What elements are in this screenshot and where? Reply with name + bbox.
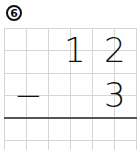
answer-line [4,117,137,119]
grid-line [136,28,137,150]
subtrahend-ones-digit: 3 [104,78,126,112]
minuend-ones-digit: 2 [104,33,126,67]
grid-line [4,28,137,29]
grid-line [92,28,93,150]
problem-number: 6 [10,8,18,19]
grid-line [4,28,5,150]
minuend-tens-digit: 1 [64,33,86,67]
minus-sign: − [14,78,43,112]
grid-line [48,28,49,150]
worksheet-grid: 1 2 − 3 [4,28,137,150]
problem-number-badge: 6 [6,5,22,21]
grid-line [4,73,137,74]
grid-line [4,140,137,141]
